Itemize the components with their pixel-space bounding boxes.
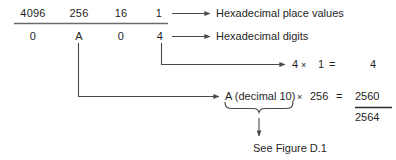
hexadecimal-place-value-figure: 4096 256 16 1 Hexadecimal place values 0… (0, 0, 396, 160)
see-figure-note: See Figure D.1 (253, 143, 327, 154)
term-1-product: 4 (370, 59, 376, 70)
term-1-digit: 4 (292, 59, 298, 70)
connector-digit-4 (162, 43, 286, 65)
term-1-equals: = (329, 59, 335, 70)
place-value-16: 16 (115, 8, 128, 19)
place-value-4096: 4096 (20, 8, 45, 19)
place-value-256: 256 (70, 8, 89, 19)
connector-digit-a (79, 43, 220, 97)
term-1-place: 1 (318, 59, 324, 70)
term-2-equals: = (336, 91, 342, 102)
hex-digit-0-second: 0 (118, 31, 124, 42)
term-1-times-icon: × (301, 60, 306, 71)
term-2-digit: A (decimal 10) (225, 91, 295, 102)
label-hexadecimal-place-values: Hexadecimal place values (216, 8, 344, 19)
figure-line-art (0, 0, 396, 160)
hex-digit-0-first: 0 (30, 31, 36, 42)
hex-digit-4: 4 (157, 31, 163, 42)
label-hexadecimal-digits: Hexadecimal digits (216, 31, 308, 42)
place-value-1: 1 (156, 8, 162, 19)
decimal-underbrace (225, 102, 293, 113)
total-sum: 2564 (355, 112, 379, 123)
hex-digit-a: A (75, 31, 83, 42)
term-2-product: 2560 (355, 91, 379, 102)
term-2-times-icon: × (297, 92, 302, 103)
term-2-place: 256 (310, 91, 328, 102)
